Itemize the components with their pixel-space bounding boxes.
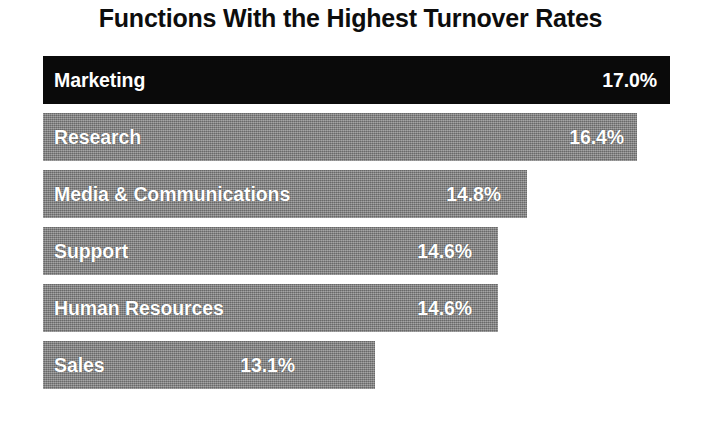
chart-title: Functions With the Highest Turnover Rate… [0, 4, 701, 33]
bar-category-label: Research [54, 113, 141, 161]
bar-value-label: 14.6% [417, 284, 472, 332]
bar-value-label: 13.1% [240, 341, 295, 389]
bar-chart-figure: Functions With the Highest Turnover Rate… [0, 0, 701, 424]
bar-support[interactable]: Support 14.6% [43, 227, 498, 275]
bars-container: Marketing 17.0% Research 16.4% Media & C… [43, 56, 683, 406]
bar-media-and-communications[interactable]: Media & Communications 14.8% [43, 170, 527, 218]
bar-human-resources[interactable]: Human Resources 14.6% [43, 284, 498, 332]
bar-value-label: 16.4% [569, 113, 624, 161]
bar-category-label: Media & Communications [54, 170, 290, 218]
bar-category-label: Sales [54, 341, 104, 389]
bar-category-label: Support [54, 227, 128, 275]
bar-marketing[interactable]: Marketing 17.0% [43, 56, 670, 104]
bar-research[interactable]: Research 16.4% [43, 113, 637, 161]
bar-sales[interactable]: Sales 13.1% [43, 341, 375, 389]
bar-value-label: 17.0% [602, 56, 657, 104]
bar-category-label: Human Resources [54, 284, 224, 332]
bar-value-label: 14.6% [417, 227, 472, 275]
bar-value-label: 14.8% [446, 170, 501, 218]
bar-category-label: Marketing [54, 56, 145, 104]
